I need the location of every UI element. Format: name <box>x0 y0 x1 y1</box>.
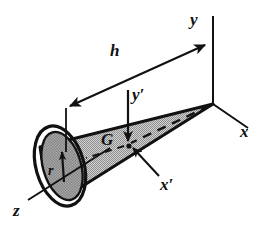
axis-x-prime-label: x′ <box>159 175 173 194</box>
axis-y: y <box>188 10 213 104</box>
radius-label: r <box>48 163 54 178</box>
axis-x: x <box>213 104 249 141</box>
diagram-canvas: z y x h y′ <box>0 0 262 238</box>
cone-diagram-figure: z y x h y′ <box>0 0 262 238</box>
centroid-label: G <box>101 130 114 149</box>
axis-z-label: z <box>12 201 20 220</box>
axis-x-label: x <box>239 122 249 141</box>
axis-x-prime: x′ <box>133 148 173 194</box>
centroid-dot <box>126 143 131 148</box>
axis-x-prime-line <box>133 148 159 176</box>
height-label: h <box>110 41 119 60</box>
cone-base <box>26 120 95 212</box>
axis-y-prime-label: y′ <box>130 85 144 104</box>
axis-y-label: y <box>188 10 198 29</box>
